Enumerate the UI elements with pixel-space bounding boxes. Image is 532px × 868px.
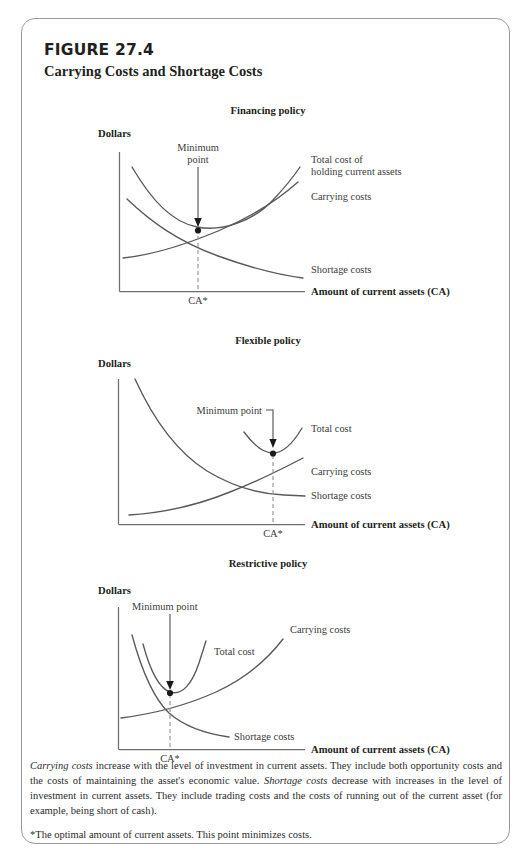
y-axis-label-financing: Dollars [98,128,131,139]
curve-shortage-costs-flexible [135,379,305,496]
minimum-point-leader-flexible [266,410,273,439]
minimum-point-marker-flexible [270,450,276,456]
chart-panel-restrictive: Restrictive policy Dollars Minimum point… [22,534,511,759]
minimum-point-arrow-icon-restrictive [166,681,174,690]
label-total-cost-flexible: Total cost [311,423,352,434]
footnote-emphasis-carrying-costs: Carrying costs [30,760,93,771]
footnote-paragraph-2: *The optimal amount of current assets. T… [30,828,502,843]
y-axis-label-restrictive: Dollars [98,585,131,596]
label-shortage-costs-flexible: Shortage costs [311,490,371,501]
minimum-point-label-restrictive: Minimum point [132,601,198,612]
panel-subtitle-financing: Financing policy [230,105,306,116]
label-total-cost-line1-financing: Total cost of [311,154,363,165]
figure-card: FIGURE 27.4 Carrying Costs and Shortage … [21,18,510,844]
x-axis-label-financing: Amount of current assets (CA) [311,286,450,298]
footnotes: Carrying costs increase with the level o… [30,759,502,843]
label-total-cost-line2-financing: holding current assets [311,166,402,177]
panel-subtitle-restrictive: Restrictive policy [229,558,308,569]
minimum-point-marker-financing [195,227,201,233]
minimum-point-label-line2-financing: point [187,154,208,165]
footnote-paragraph-1: Carrying costs increase with the level o… [30,759,502,819]
curve-total-cost-restrictive [143,641,206,693]
y-axis-label-flexible: Dollars [98,358,131,369]
chart-panel-flexible: Flexible policy Dollars Minimum point To… [22,309,511,534]
minimum-point-label-line1-financing: Minimum [177,142,219,153]
optimum-tick-label-financing: CA* [188,295,208,306]
curve-shortage-costs-financing [127,199,303,278]
label-carrying-costs-flexible: Carrying costs [311,466,371,477]
curve-carrying-costs-flexible [129,458,303,515]
chart-panel-financing: Financing policy Dollars Minimum point T… [22,79,511,304]
x-axis-label-flexible: Amount of current assets (CA) [311,519,450,531]
curve-total-cost-financing [132,167,300,228]
label-carrying-costs-financing: Carrying costs [311,191,371,202]
figure-number: FIGURE 27.4 [44,41,484,60]
label-shortage-costs-financing: Shortage costs [311,264,371,275]
footnote-emphasis-shortage-costs: Shortage costs [264,775,327,786]
minimum-point-arrow-icon-flexible [269,439,276,448]
minimum-point-marker-restrictive [167,690,173,696]
figure-header: FIGURE 27.4 Carrying Costs and Shortage … [44,41,484,81]
minimum-point-label-flexible: Minimum point [196,405,262,416]
panel-subtitle-flexible: Flexible policy [235,335,301,346]
label-total-cost-restrictive: Total cost [214,646,255,657]
x-axis-label-restrictive: Amount of current assets (CA) [311,744,450,756]
label-shortage-costs-restrictive: Shortage costs [234,731,294,742]
minimum-point-arrow-icon-financing [194,218,202,227]
label-carrying-costs-restrictive: Carrying costs [290,624,350,635]
